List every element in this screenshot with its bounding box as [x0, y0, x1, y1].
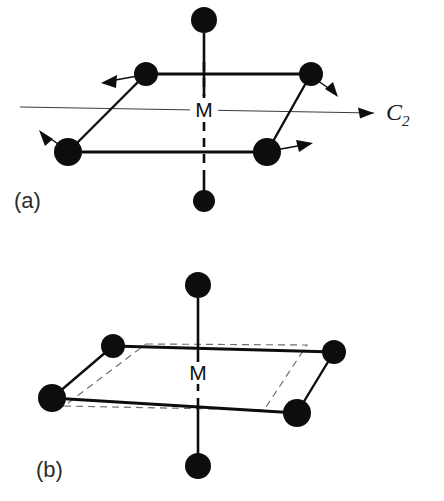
- c2-axis-label-main: C: [386, 99, 403, 125]
- bond-left-edge-a: [68, 74, 146, 152]
- panel-a-label: (a): [14, 188, 41, 213]
- atom-axial-bottom-b: [185, 453, 211, 479]
- atom-axial-top-b: [185, 272, 211, 298]
- c2-axis-label-subscript: 2: [402, 113, 410, 129]
- panel-b-diagram: M (b): [0, 250, 444, 501]
- displacement-arrow-back-right-head: [325, 82, 338, 97]
- figure-root: M C 2 (a): [0, 0, 444, 501]
- atom-equatorial-front-right-b: [283, 399, 311, 427]
- atom-equatorial-back-right-a: [299, 62, 323, 86]
- metal-center-label-b: M: [189, 361, 207, 384]
- atom-equatorial-back-left-b: [101, 334, 125, 358]
- c2-axis-arrowhead: [358, 108, 374, 119]
- atom-equatorial-front-left-a: [54, 138, 82, 166]
- atom-axial-bottom-a: [193, 190, 215, 212]
- displacement-arrow-back-left-head: [101, 75, 117, 88]
- bond-back-edge-b: [113, 346, 334, 352]
- metal-center-label-a: M: [195, 98, 213, 121]
- atom-equatorial-back-left-a: [134, 62, 158, 86]
- atom-equatorial-back-right-b: [322, 340, 346, 364]
- panel-a-diagram: M C 2 (a): [0, 0, 444, 250]
- displacement-arrows-a: [39, 75, 338, 152]
- atom-axial-top-a: [191, 7, 217, 33]
- atom-equatorial-front-right-a: [253, 138, 281, 166]
- bond-front-edge-b: [52, 398, 297, 413]
- displacement-arrow-front-right-head: [296, 140, 313, 152]
- panel-b-label: (b): [36, 457, 63, 482]
- atom-equatorial-front-left-b: [38, 384, 66, 412]
- displacement-arrow-front-left-head: [39, 130, 53, 146]
